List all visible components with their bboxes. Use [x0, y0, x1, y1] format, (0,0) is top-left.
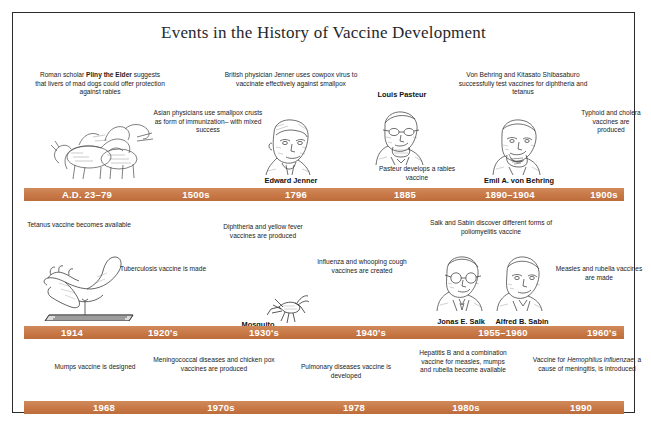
- bar-label-1796: 1796: [285, 188, 307, 201]
- bar-label-1500s: 1500s: [182, 188, 209, 201]
- bar-label-1960s: 1960's: [587, 326, 617, 339]
- timeline-bar-2: 1914 1920's 1930's 1940's 1955–1960 1960…: [24, 326, 624, 339]
- caption-text: Roman scholar: [40, 71, 86, 78]
- caption-pasteur-rabies: Pasteur develops a rabies vaccine: [375, 165, 459, 182]
- poster-frame: Events in the History of Vaccine Develop…: [12, 12, 635, 413]
- caption-jenner: British physician Jenner uses cowpox vir…: [224, 71, 358, 88]
- timeline-bar-1: A.D. 23–79 1500s 1796 1885 1890–1904 190…: [24, 188, 624, 201]
- bar-label-1978: 1978: [343, 401, 365, 414]
- caption-pliny: Roman scholar Pliny the Elder suggests t…: [35, 71, 165, 97]
- portrait-name-jenner: Edward Jenner: [265, 176, 318, 185]
- caption-diphtheria-yellow-fever: Diphtheria and yellow fever vaccines are…: [211, 223, 315, 240]
- caption-emphasis: Pliny the Elder: [86, 71, 132, 78]
- caption-hemophilus: Vaccine for Hemophilus influenzae, a cau…: [532, 356, 642, 373]
- bar-label-1990: 1990: [570, 401, 592, 414]
- jonas-salk-portrait: [431, 253, 493, 311]
- edward-jenner-portrait: [256, 117, 326, 175]
- caption-tuberculosis: Tuberculosis vaccine is made: [118, 265, 208, 274]
- caption-salk-sabin: Salk and Sabin discover different forms …: [419, 219, 563, 236]
- caption-emphasis: Hemophilus influenzae: [567, 356, 634, 363]
- bar-label-1900s: 1900s: [590, 188, 617, 201]
- bar-label-1920s: 1920's: [148, 326, 178, 339]
- bar-label-1968: 1968: [93, 401, 115, 414]
- alfred-sabin-portrait: [491, 253, 553, 311]
- label-louis-pasteur: Louis Pasteur: [378, 90, 427, 99]
- caption-measles-rubella: Measles and rubella vaccines are made: [553, 265, 645, 282]
- caption-influenza-whooping: Influenza and whooping cough vaccines ar…: [310, 258, 414, 275]
- caption-pulmonary: Pulmonary diseases vaccine is developed: [294, 363, 398, 380]
- page-title: Events in the History of Vaccine Develop…: [13, 23, 634, 43]
- caption-von-behring: Von Behring and Kitasato Shibasaburo suc…: [456, 71, 590, 97]
- timeline-bar-3: 1968 1970s 1978 1980s 1990: [24, 401, 624, 414]
- portrait-name-sabin: Alfred B. Sabin: [496, 317, 549, 326]
- portrait-name-von-behring: Emil A. von Behring: [484, 176, 554, 185]
- bar-label-1940s: 1940's: [356, 326, 386, 339]
- bar-label-1930s: 1930's: [249, 326, 279, 339]
- louis-pasteur-portrait: [369, 109, 435, 165]
- foot-and-nail-engraving: [41, 253, 141, 321]
- bar-label-1955-1960: 1955–1960: [478, 326, 527, 339]
- caption-typhoid-cholera: Typhoid and cholera vaccines are produce…: [581, 109, 641, 135]
- caption-asian-physicians: Asian physicians use smallpox crusts as …: [152, 109, 264, 135]
- caption-meningococcal: Meningococcal diseases and chicken pox v…: [153, 356, 275, 373]
- bar-label-1970s: 1970s: [207, 401, 234, 414]
- emil-von-behring-portrait: [485, 117, 553, 175]
- bar-label-1914: 1914: [61, 326, 83, 339]
- caption-mumps: Mumps vaccine is designed: [49, 363, 141, 372]
- bar-label-1980s: 1980s: [452, 401, 479, 414]
- rabid-dogs-engraving: [49, 117, 157, 183]
- bar-label-1890-1904: 1890–1904: [485, 188, 534, 201]
- caption-tetanus: Tetanus vaccine becomes available: [27, 221, 131, 230]
- portrait-name-salk: Jonas E. Salk: [437, 317, 485, 326]
- caption-hepatitis-b: Hepatitis B and a combination vaccine fo…: [417, 349, 509, 375]
- bar-label-ad-23-79: A.D. 23–79: [62, 188, 112, 201]
- bar-label-1885: 1885: [394, 188, 416, 201]
- caption-text: Vaccine for: [533, 356, 567, 363]
